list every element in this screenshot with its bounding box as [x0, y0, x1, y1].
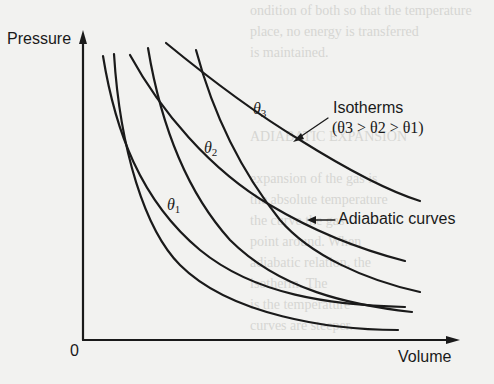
theta1-label: θ1 [167, 196, 180, 215]
theta3-label: θ3 [253, 100, 266, 119]
adiabatic-curve-1 [114, 54, 398, 330]
adiabatic-annotation: Adiabatic curves [338, 210, 455, 228]
origin-label: 0 [70, 342, 79, 360]
isotherms-annotation-title: Isotherms [333, 99, 403, 117]
adiabatic-arrowhead [307, 216, 316, 224]
x-axis-arrowhead [446, 336, 460, 344]
isotherm-theta1 [103, 56, 405, 307]
y-axis-label: Pressure [7, 30, 71, 48]
isotherm-theta2 [130, 55, 405, 261]
theta2-label: θ2 [204, 139, 217, 158]
pv-diagram [0, 0, 494, 384]
isotherms-annotation-relation: (θ3 > θ2 > θ1) [332, 119, 424, 137]
y-axis-arrowhead [79, 30, 87, 44]
x-axis-label: Volume [398, 348, 451, 366]
